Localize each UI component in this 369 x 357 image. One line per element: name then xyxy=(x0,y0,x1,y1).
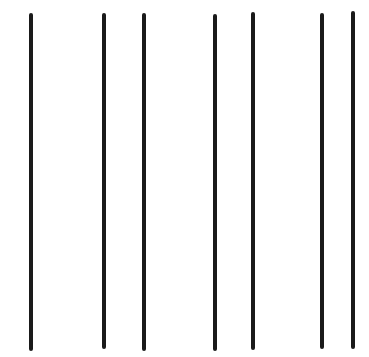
background xyxy=(0,0,369,357)
vertical-lines-diagram xyxy=(0,0,369,357)
